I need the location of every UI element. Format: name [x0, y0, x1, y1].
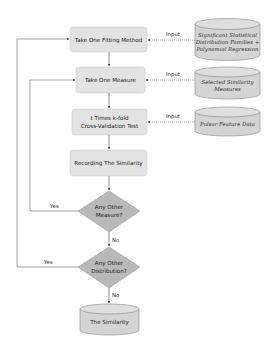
- output-the-similarity: The Similarity: [80, 304, 139, 335]
- svg-text:t Times k-fold: t Times k-fold: [90, 115, 129, 121]
- label-input-3: Input: [166, 113, 180, 120]
- label-input-2: Input: [166, 71, 180, 78]
- svg-text:Polynomial Regression: Polynomial Regression: [195, 46, 259, 53]
- decision-any-other-distribution: Any Other Distribution?: [78, 247, 140, 288]
- svg-text:The Similarity: The Similarity: [89, 319, 129, 326]
- loop-yes-measure: [30, 80, 78, 211]
- flowchart: Take One Fitting Method Take One Measure…: [0, 0, 269, 353]
- process-cross-validation: t Times k-fold Cross-Validation Test: [72, 109, 147, 135]
- input-arrows: [146, 40, 195, 122]
- input-similarity-measures: Selected Similarity Measures: [195, 67, 260, 99]
- svg-text:Measure?: Measure?: [96, 212, 123, 218]
- svg-text:Measures: Measures: [213, 86, 241, 92]
- label-no-measure: No: [112, 237, 119, 243]
- label-no-distribution: No: [112, 292, 119, 298]
- svg-text:Pulsar Feature Data: Pulsar Feature Data: [199, 121, 255, 127]
- svg-text:Selected Similarity: Selected Similarity: [201, 79, 254, 86]
- svg-text:Recording The Similarity: Recording The Similarity: [74, 160, 143, 167]
- input-distribution-families: Significant Statistical Distribution Fam…: [195, 19, 260, 61]
- svg-text:Take One Measure: Take One Measure: [84, 77, 137, 83]
- svg-text:Cross-Validation Test: Cross-Validation Test: [81, 123, 139, 129]
- svg-text:Take One Fitting Method: Take One Fitting Method: [74, 37, 143, 44]
- decision-any-other-measure: Any Other Measure?: [78, 191, 140, 232]
- svg-text:Any Other: Any Other: [95, 204, 124, 211]
- input-pulsar-feature-data: Pulsar Feature Data: [195, 107, 260, 136]
- svg-text:Distribution Families +: Distribution Families +: [195, 39, 260, 45]
- label-yes-distribution: Yes: [43, 259, 53, 265]
- label-yes-measure: Yes: [49, 203, 59, 209]
- loop-yes-distribution: [17, 39, 78, 267]
- process-take-measure: Take One Measure: [76, 67, 145, 93]
- process-take-fitting-method: Take One Fitting Method: [70, 27, 147, 52]
- label-input-1: Input: [166, 31, 180, 38]
- svg-text:Significant Statistical: Significant Statistical: [198, 32, 257, 39]
- svg-text:Any Other: Any Other: [95, 260, 124, 267]
- process-recording-similarity: Recording The Similarity: [70, 150, 147, 176]
- svg-text:Distribution?: Distribution?: [91, 268, 127, 274]
